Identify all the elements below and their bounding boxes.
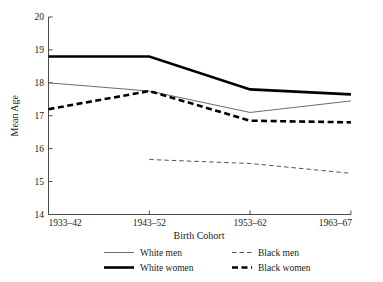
- data-series-group: [49, 57, 351, 174]
- series-line-black-men: [149, 160, 351, 174]
- y-tick-label-14: 14: [35, 210, 45, 220]
- axis-lines: [49, 17, 352, 215]
- y-tick-label-19: 19: [35, 45, 45, 55]
- y-tick-label-17: 17: [35, 111, 45, 121]
- chart-legend: White men White women Black men Black wo…: [104, 248, 311, 273]
- x-axis-title: Birth Cohort: [174, 230, 225, 241]
- legend-entry-black-men: Black men: [232, 248, 299, 258]
- legend-label-white-women: White women: [140, 263, 194, 273]
- y-axis-title: Mean Age: [9, 94, 20, 136]
- y-tick-label-20: 20: [35, 12, 45, 22]
- legend-entry-white-women: White women: [104, 263, 194, 273]
- y-axis-tick-labels: 20 19 18 17 16 15 14: [35, 12, 45, 220]
- series-line-white-men: [49, 83, 351, 113]
- series-line-white-women: [49, 57, 351, 95]
- axes: [49, 17, 352, 215]
- legend-label-black-women: Black women: [258, 263, 311, 273]
- y-tick-label-15: 15: [35, 177, 45, 187]
- mean-age-by-birth-cohort-line-chart: 20 19 18 17 16 15 14 Mean Age 1933–42 19…: [0, 0, 383, 282]
- legend-entry-white-men: White men: [104, 248, 182, 258]
- x-tick-label-1943-52: 1943–52: [133, 218, 167, 228]
- x-axis-tick-labels: 1933–42 1943–52 1953–62 1963–67: [49, 218, 353, 228]
- y-tick-label-16: 16: [35, 144, 45, 154]
- legend-entry-black-women: Black women: [232, 263, 311, 273]
- chart-figure: 20 19 18 17 16 15 14 Mean Age 1933–42 19…: [0, 0, 383, 282]
- legend-label-white-men: White men: [140, 248, 182, 258]
- x-tick-label-1953-62: 1953–62: [233, 218, 267, 228]
- y-tick-marks: [49, 17, 53, 215]
- y-tick-label-18: 18: [35, 78, 45, 88]
- series-line-black-women: [49, 91, 351, 122]
- x-tick-label-1933-42: 1933–42: [49, 218, 83, 228]
- x-tick-marks: [49, 211, 351, 215]
- legend-label-black-men: Black men: [258, 248, 299, 258]
- x-tick-label-1963-67: 1963–67: [319, 218, 353, 228]
